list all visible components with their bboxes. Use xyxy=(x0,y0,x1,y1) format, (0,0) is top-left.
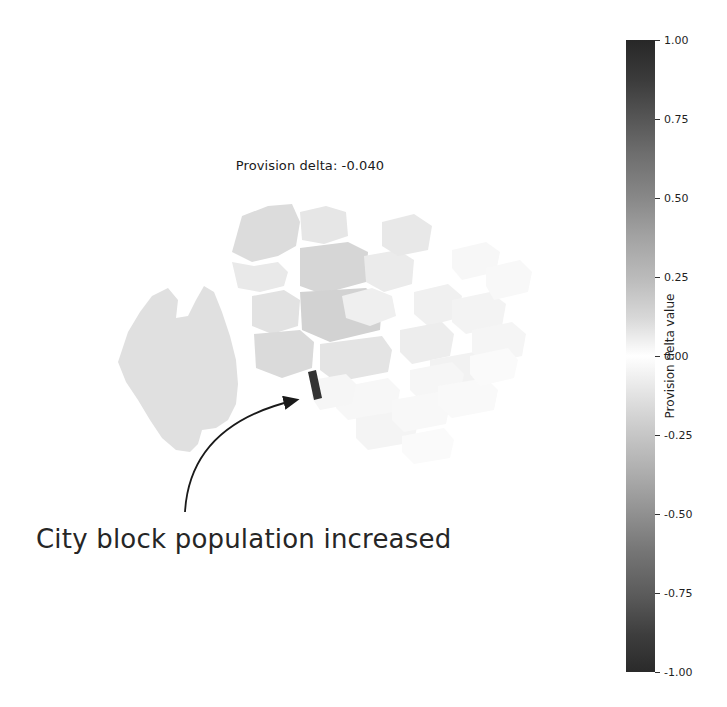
map-block-polygon xyxy=(364,250,414,292)
colorbar-tick xyxy=(655,198,660,199)
colorbar-tick xyxy=(655,672,660,673)
colorbar-ticklabel: -1.00 xyxy=(664,667,692,678)
figure-canvas: Provision delta: -0.040 xyxy=(0,0,727,707)
map-block-polygon xyxy=(300,242,368,294)
colorbar-tick xyxy=(655,119,660,120)
colorbar-ticklabel: -0.75 xyxy=(664,588,692,599)
colorbar-tick xyxy=(655,593,660,594)
map-block-polygon xyxy=(232,204,300,262)
colorbar-tick xyxy=(655,277,660,278)
map-block-polygon xyxy=(118,286,238,452)
map-block-polygon xyxy=(382,214,432,256)
map-block-polygon xyxy=(254,330,314,378)
colorbar-tick xyxy=(655,514,660,515)
colorbar-ticklabel: 0.50 xyxy=(664,193,689,204)
map-block-polygon xyxy=(300,206,348,244)
colorbar-ticklabel: 1.00 xyxy=(664,35,689,46)
colorbar-ticklabel: 0.75 xyxy=(664,114,689,125)
colorbar-ticklabel: -0.50 xyxy=(664,509,692,520)
map-block-polygon xyxy=(252,290,300,334)
colorbar-tick xyxy=(655,40,660,41)
colorbar-axis-label: Provision delta value xyxy=(663,236,677,476)
map-axes: City block population increased xyxy=(0,0,620,707)
colorbar-tick xyxy=(655,356,660,357)
colorbar-gradient xyxy=(626,40,655,672)
city-block-map xyxy=(0,0,620,707)
map-block-polygon xyxy=(232,262,288,292)
colorbar-tick xyxy=(655,435,660,436)
map-block-polygon xyxy=(320,336,392,382)
colorbar-axes: 1.00 0.75 0.50 0.25 0.00 -0.25 -0.50 -0.… xyxy=(588,0,727,707)
annotation-label: City block population increased xyxy=(36,524,451,554)
